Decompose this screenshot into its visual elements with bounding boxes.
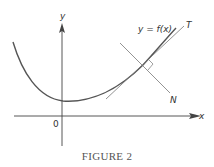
y-axis-label: y [59,11,66,21]
curve-label: y = f(x) [137,24,172,34]
tangent-label: T [186,20,193,30]
right-angle-marker [148,59,153,70]
tangent-line [106,26,184,99]
function-curve [13,28,176,101]
figure-caption: FIGURE 2 [82,150,132,162]
x-axis-label: x [198,111,205,121]
normal-line [120,43,170,93]
origin-label: 0 [53,119,59,129]
normal-label: N [170,95,177,105]
figure-diagram: x y 0 T N y = f(x) FIGURE 2 [0,0,214,167]
